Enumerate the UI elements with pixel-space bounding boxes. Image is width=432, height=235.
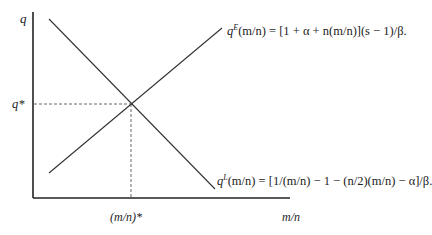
y-axis-label: q bbox=[20, 12, 27, 25]
qE-equation-text: (m/n) = [1 + α + n(m/n)](s − 1)/β. bbox=[238, 24, 407, 38]
qE-curve bbox=[49, 28, 222, 173]
qL-equation: qL(m/n) = [1/(m/n) − 1 − (n/2)(m/n) − α]… bbox=[217, 174, 432, 188]
qL-equation-text: (m/n) = [1/(m/n) − 1 − (n/2)(m/n) − α]/β… bbox=[228, 174, 432, 188]
qE-equation: qE(m/n) = [1 + α + n(m/n)](s − 1)/β. bbox=[227, 24, 407, 38]
qL-curve bbox=[49, 19, 215, 189]
q-star-label: q* bbox=[12, 98, 25, 111]
mn-star-label: (m/n)* bbox=[110, 211, 142, 223]
x-axis-label: m/n bbox=[282, 211, 300, 223]
